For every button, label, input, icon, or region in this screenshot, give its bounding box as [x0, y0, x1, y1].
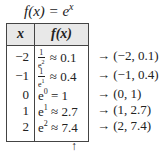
- value-table: x f(x) −2 1e2 ≈ 0.1 −1 1e1 ≈ 0.4 0 e0 = …: [6, 23, 89, 142]
- function-title: f(x) = ex: [24, 1, 74, 20]
- x-value: 0: [23, 87, 30, 103]
- x-value: 1: [23, 103, 30, 119]
- header-fx: f(x): [35, 26, 88, 42]
- function-title-text: f(x) = e: [24, 3, 69, 19]
- x-value: 2: [23, 119, 30, 135]
- point-label: → (0, 1): [97, 86, 141, 102]
- x-value: −2: [15, 49, 29, 65]
- table-row: 2 e2 ≈ 7.4: [7, 118, 88, 136]
- header-x: x: [7, 26, 34, 42]
- x-value: −1: [15, 68, 29, 84]
- table-row: −1 1e1 ≈ 0.4: [7, 67, 88, 85]
- point-label: → (2, 7.4): [97, 118, 151, 134]
- point-label: → (1, 2.7): [97, 102, 151, 118]
- table-header: x f(x): [7, 24, 88, 46]
- arrow-up-icon: ↑: [71, 140, 77, 151]
- fx-value: e2 ≈ 7.4: [38, 119, 78, 136]
- point-label: → (−2, 0.1): [97, 48, 159, 64]
- table-row: −2 1e2 ≈ 0.1: [7, 48, 88, 66]
- point-label: → (−1, 0.4): [97, 67, 159, 83]
- function-exponent: x: [69, 1, 73, 12]
